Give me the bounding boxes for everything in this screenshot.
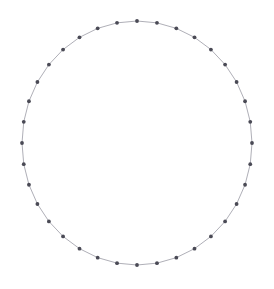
ring-node[interactable] <box>223 63 227 67</box>
ring-node[interactable] <box>27 183 31 187</box>
ring-node[interactable] <box>248 120 252 124</box>
ring-node[interactable] <box>96 256 100 260</box>
ring-node[interactable] <box>243 99 247 103</box>
figure-canvas <box>0 0 274 289</box>
ring-node[interactable] <box>243 183 247 187</box>
ring-node[interactable] <box>193 247 197 251</box>
ring-node[interactable] <box>209 48 213 52</box>
ring-node[interactable] <box>20 141 24 145</box>
ring-node[interactable] <box>61 48 65 52</box>
figure-background <box>0 0 274 289</box>
ring-graph-svg <box>0 0 274 289</box>
ring-node[interactable] <box>174 256 178 260</box>
ring-node[interactable] <box>61 235 65 239</box>
ring-node[interactable] <box>250 141 254 145</box>
ring-node[interactable] <box>235 80 239 84</box>
ring-node[interactable] <box>155 261 159 265</box>
ring-node[interactable] <box>47 63 51 67</box>
ring-node[interactable] <box>193 35 197 39</box>
ring-node[interactable] <box>27 99 31 103</box>
ring-node[interactable] <box>78 247 82 251</box>
ring-node[interactable] <box>135 263 139 267</box>
ring-node[interactable] <box>115 261 119 265</box>
ring-node[interactable] <box>174 26 178 30</box>
ring-node[interactable] <box>235 202 239 206</box>
ring-node[interactable] <box>47 220 51 224</box>
ring-node[interactable] <box>223 220 227 224</box>
ring-node[interactable] <box>22 162 26 166</box>
ring-node[interactable] <box>78 35 82 39</box>
ring-node[interactable] <box>248 162 252 166</box>
ring-node[interactable] <box>22 120 26 124</box>
ring-node[interactable] <box>96 26 100 30</box>
ring-node[interactable] <box>155 21 159 25</box>
ring-node[interactable] <box>36 202 40 206</box>
ring-node[interactable] <box>115 21 119 25</box>
ring-node[interactable] <box>135 19 139 23</box>
ring-node[interactable] <box>36 80 40 84</box>
ring-node[interactable] <box>209 235 213 239</box>
